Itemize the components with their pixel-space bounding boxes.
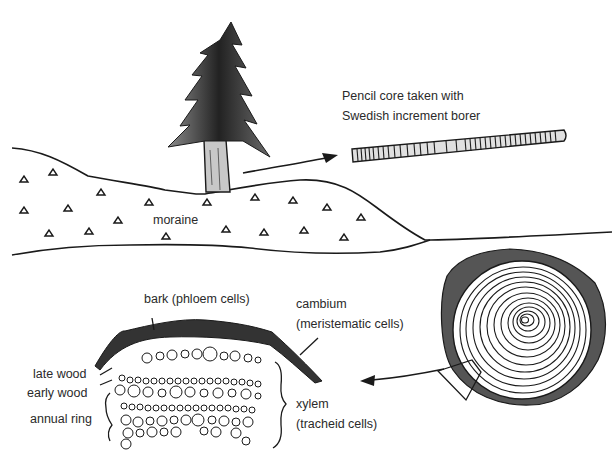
arrow-to-wedge bbox=[360, 369, 444, 386]
late-wood-pointer bbox=[100, 368, 112, 375]
pencil-core bbox=[352, 130, 566, 162]
label-early-wood: early wood bbox=[27, 386, 87, 401]
label-bark: bark (phloem cells) bbox=[144, 292, 250, 307]
label-cambium-line2: (meristematic cells) bbox=[296, 317, 404, 332]
label-annual-ring: annual ring bbox=[30, 412, 92, 427]
label-cambium-line1: cambium bbox=[296, 297, 347, 312]
label-xylem-line1: xylem bbox=[296, 397, 329, 412]
arrow-to-core bbox=[243, 153, 338, 173]
moraine-hill bbox=[12, 148, 612, 255]
label-core-line1: Pencil core taken with bbox=[342, 89, 464, 104]
xylem-brace bbox=[273, 362, 286, 448]
label-xylem-line2: (tracheid cells) bbox=[296, 417, 377, 432]
early-wood-pointer bbox=[100, 380, 112, 385]
label-moraine: moraine bbox=[153, 213, 198, 228]
trunk-cross-section bbox=[438, 249, 606, 405]
conifer-tree bbox=[168, 22, 270, 192]
annual-ring-brace bbox=[106, 393, 113, 441]
label-core-line2: Swedish increment borer bbox=[342, 109, 480, 124]
diagram-canvas bbox=[0, 0, 612, 459]
wedge-detail bbox=[95, 318, 322, 449]
cambium-pointer bbox=[300, 338, 318, 355]
label-late-wood: late wood bbox=[33, 367, 87, 382]
